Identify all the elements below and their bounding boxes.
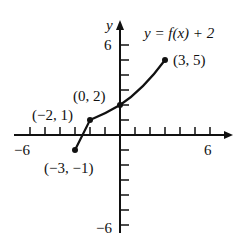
point-3-5	[162, 57, 168, 63]
graph: y y = f(x) + 2 6 −6 −6 6 (3, 5) (0, 2) (…	[0, 0, 235, 233]
point-label-neg3-neg1: (−3, −1)	[44, 160, 93, 177]
y-tick-label-6: 6	[104, 37, 112, 53]
point-neg2-1	[87, 117, 93, 123]
point-neg3-neg1	[72, 147, 78, 153]
x-tick-label-neg6: −6	[14, 142, 30, 158]
point-label-0-2: (0, 2)	[73, 88, 106, 105]
point-0-2	[117, 102, 123, 108]
x-tick-label-6: 6	[204, 142, 212, 158]
y-axis-arrow-icon	[116, 20, 124, 30]
point-label-neg2-1: (−2, 1)	[32, 107, 73, 124]
y-tick-label-neg6: −6	[96, 220, 112, 233]
point-label-3-5: (3, 5)	[173, 52, 206, 69]
x-axis-arrow-icon	[224, 131, 233, 139]
function-label: y = f(x) + 2	[142, 25, 215, 42]
y-axis-label: y	[104, 17, 113, 33]
